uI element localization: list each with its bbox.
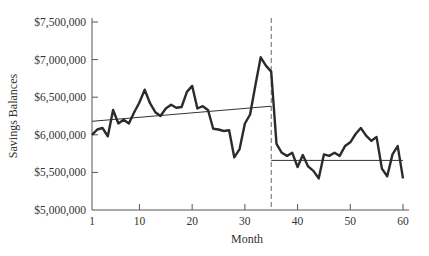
- y-axis-title: Savings Balances: [6, 74, 20, 159]
- x-axis-title: Month: [231, 232, 263, 246]
- x-tick-label: 50: [345, 215, 357, 227]
- x-tick-label: 40: [292, 215, 304, 227]
- y-axis-ticks: $5,000,000$5,500,000$6,000,000$6,500,000…: [34, 16, 98, 217]
- pre-trend-line: [92, 106, 271, 121]
- savings-line-chart: $5,000,000$5,500,000$6,000,000$6,500,000…: [0, 0, 429, 256]
- x-tick-label: 10: [134, 215, 146, 227]
- x-tick-label: 60: [397, 215, 409, 227]
- y-tick-label: $6,500,000: [34, 91, 86, 104]
- x-tick-label: 20: [186, 215, 198, 227]
- x-tick-label: 30: [239, 215, 251, 227]
- y-tick-label: $7,500,000: [34, 16, 86, 29]
- y-tick-label: $6,000,000: [34, 129, 86, 142]
- y-tick-label: $5,000,000: [34, 204, 86, 217]
- x-tick-label: 1: [89, 215, 95, 227]
- x-axis-ticks: 1102030405060: [89, 204, 409, 227]
- y-tick-label: $7,000,000: [34, 54, 86, 67]
- y-tick-label: $5,500,000: [34, 166, 86, 179]
